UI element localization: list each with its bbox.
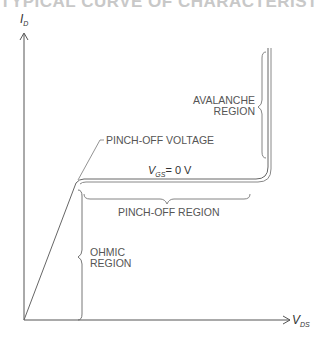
- characteristic-curve-diagram: ID VDS PINCH-OFF VOLTAGE VGS= 0 V PINCH-…: [0, 0, 318, 341]
- vgs-curve-label: VGS= 0 V: [148, 164, 192, 178]
- avalanche-region-brace: [258, 52, 266, 158]
- pinch-off-region-brace: [84, 194, 250, 204]
- pinch-off-region-label: PINCH-OFF REGION: [118, 206, 220, 218]
- ohmic-region-brace: [78, 190, 82, 320]
- x-axis-label: VDS: [292, 313, 310, 328]
- avalanche-region-label-line2: REGION: [214, 105, 255, 117]
- characteristic-curve: [24, 48, 271, 320]
- y-axis-label: ID: [20, 12, 28, 27]
- ohmic-region-label-line2: REGION: [90, 257, 131, 269]
- pinch-off-voltage-label: PINCH-OFF VOLTAGE: [106, 134, 214, 146]
- pinch-off-voltage-leader: [78, 140, 104, 180]
